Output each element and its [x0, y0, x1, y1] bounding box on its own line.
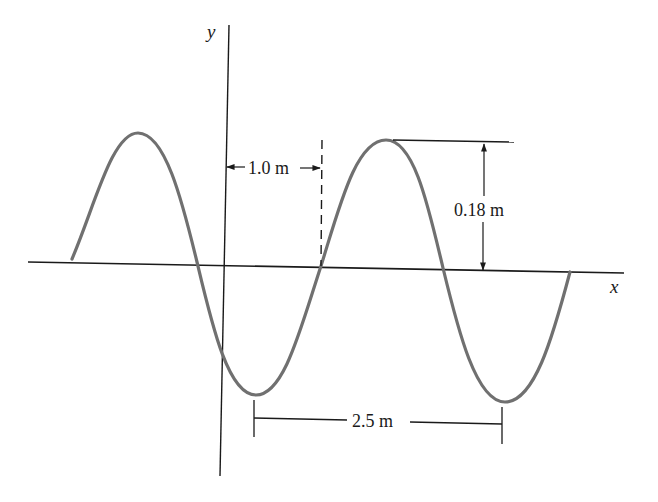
dashed-marker-line: [321, 140, 322, 266]
wavelength-label: 2.5 m: [352, 411, 393, 431]
x-axis-label: x: [609, 276, 619, 297]
wavelength-line-right: [410, 422, 502, 424]
wave-curve: [72, 133, 570, 402]
wavelength-line-left: [254, 418, 347, 420]
amplitude-top-line: [393, 140, 514, 142]
diagram-canvas: y x 1.0 m 0.18 m 2.5 m: [0, 0, 658, 502]
x-axis: [28, 262, 624, 273]
wave-diagram: y x 1.0 m 0.18 m 2.5 m: [0, 0, 658, 502]
offset-label: 1.0 m: [248, 158, 289, 178]
amplitude-label: 0.18 m: [454, 200, 504, 220]
y-axis: [220, 25, 229, 476]
y-axis-label: y: [205, 21, 216, 42]
